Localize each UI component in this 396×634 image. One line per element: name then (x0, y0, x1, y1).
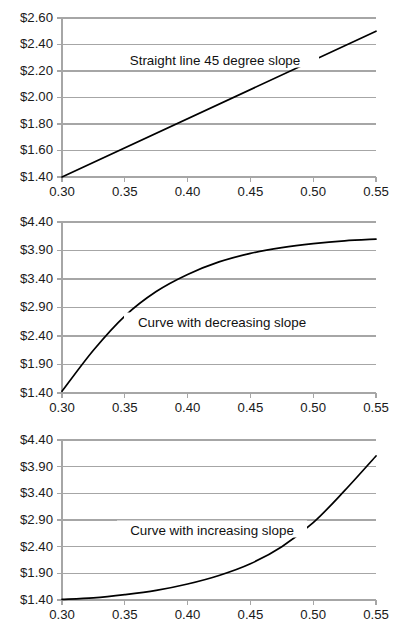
chart-panel-straight-line: $1.40$1.60$1.80$2.00$2.20$2.40$2.600.300… (0, 0, 396, 205)
y-tick-label: $3.40 (20, 271, 53, 286)
chart-annotation-label: Curve with decreasing slope (138, 315, 306, 330)
x-tick-label: 0.45 (238, 184, 264, 199)
chart-curve-with-decreasing-slope: $1.40$1.90$2.40$2.90$3.40$3.90$4.400.300… (0, 205, 396, 417)
chart-curve-with-increasing-slope: $1.40$1.90$2.40$2.90$3.40$3.90$4.400.300… (0, 417, 396, 634)
y-tick-label: $2.90 (20, 512, 53, 527)
x-tick-label: 0.50 (300, 184, 326, 199)
y-axis-tick-labels: $1.40$1.60$1.80$2.00$2.20$2.40$2.60 (20, 10, 53, 184)
x-tick-label: 0.45 (238, 400, 264, 415)
y-tick-label: $1.40 (20, 592, 53, 607)
x-tick-label: 0.50 (300, 400, 326, 415)
x-tick-label: 0.55 (363, 184, 389, 199)
chart-panel-increasing-slope: $1.40$1.90$2.40$2.90$3.40$3.90$4.400.300… (0, 417, 396, 634)
y-tick-label: $3.40 (20, 485, 53, 500)
x-tick-label: 0.35 (112, 184, 138, 199)
y-tick-label: $2.90 (20, 299, 53, 314)
x-axis-ticks (62, 393, 376, 398)
y-tick-label: $1.40 (20, 169, 53, 184)
y-tick-label: $2.60 (20, 10, 53, 25)
y-tick-label: $2.40 (20, 328, 53, 343)
gridlines (62, 222, 376, 393)
gridlines (62, 18, 376, 177)
x-tick-label: 0.40 (175, 607, 201, 622)
y-tick-label: $2.40 (20, 539, 53, 554)
x-axis-ticks (62, 177, 376, 182)
y-tick-label: $3.90 (20, 459, 53, 474)
x-axis-tick-labels: 0.300.350.400.450.500.55 (49, 184, 389, 199)
y-tick-label: $2.20 (20, 63, 53, 78)
x-tick-label: 0.30 (49, 400, 75, 415)
chart-straight-line-45-degree-slope: $1.40$1.60$1.80$2.00$2.20$2.40$2.600.300… (0, 0, 396, 205)
x-tick-label: 0.30 (49, 184, 75, 199)
chart-panel-decreasing-slope: $1.40$1.90$2.40$2.90$3.40$3.90$4.400.300… (0, 205, 396, 417)
y-tick-label: $4.40 (20, 432, 53, 447)
y-axis-ticks (57, 222, 62, 393)
y-tick-label: $2.00 (20, 89, 53, 104)
x-tick-label: 0.40 (175, 400, 201, 415)
x-tick-label: 0.50 (300, 607, 326, 622)
y-tick-label: $1.80 (20, 116, 53, 131)
x-axis-ticks (62, 600, 376, 605)
y-axis-ticks (57, 18, 62, 177)
y-tick-label: $1.90 (20, 356, 53, 371)
x-axis-tick-labels: 0.300.350.400.450.500.55 (49, 607, 389, 622)
chart-annotation-label: Curve with increasing slope (130, 523, 294, 538)
x-tick-label: 0.40 (175, 184, 201, 199)
y-tick-label: $4.40 (20, 214, 53, 229)
x-tick-label: 0.45 (238, 607, 264, 622)
y-axis-tick-labels: $1.40$1.90$2.40$2.90$3.40$3.90$4.40 (20, 214, 53, 400)
x-tick-label: 0.35 (112, 607, 138, 622)
y-axis-ticks (57, 440, 62, 600)
x-axis-tick-labels: 0.300.350.400.450.500.55 (49, 400, 389, 415)
x-tick-label: 0.30 (49, 607, 75, 622)
chart-annotation-label: Straight line 45 degree slope (130, 53, 300, 68)
x-tick-label: 0.35 (112, 400, 138, 415)
y-tick-label: $3.90 (20, 242, 53, 257)
y-tick-label: $2.40 (20, 36, 53, 51)
x-tick-label: 0.55 (363, 607, 389, 622)
y-tick-label: $1.40 (20, 385, 53, 400)
y-axis-tick-labels: $1.40$1.90$2.40$2.90$3.40$3.90$4.40 (20, 432, 53, 607)
x-tick-label: 0.55 (363, 400, 389, 415)
y-tick-label: $1.60 (20, 142, 53, 157)
figure-three-slope-charts: $1.40$1.60$1.80$2.00$2.20$2.40$2.600.300… (0, 0, 396, 634)
y-tick-label: $1.90 (20, 565, 53, 580)
